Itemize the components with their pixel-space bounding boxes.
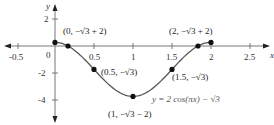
label-point-min: (1, −√3 − 2) — [108, 109, 152, 119]
point-min — [130, 94, 135, 99]
y-tick-label: 2 — [44, 14, 49, 24]
x-tick-label: 2.5 — [244, 52, 256, 62]
x-tick-label: 2 — [209, 52, 214, 62]
x-tick-label: 0 — [46, 50, 51, 60]
label-point-1-5: (1.5, −√3) — [172, 72, 208, 82]
function-graph: x y -0.5 0 0.5 1 1.5 2 2.5 2 -2 -4 — [0, 0, 274, 125]
equation-label: y = 2 cos(πx) − √3 — [151, 94, 220, 104]
x-tick-label: 1 — [131, 52, 136, 62]
point-x-intercept-1 — [65, 43, 70, 48]
label-point-0-5: (0.5, −√3) — [101, 67, 137, 77]
y-tick-label: -4 — [38, 95, 46, 105]
label-point-0: (0, −√3 + 2) — [63, 26, 107, 36]
point-0-5 — [91, 67, 96, 72]
point-2 — [208, 40, 213, 45]
x-axis-label: x — [269, 50, 274, 60]
x-tick-labels: -0.5 0 0.5 1 1.5 2 2.5 — [9, 50, 256, 62]
y-axis-down-arrow-icon — [53, 116, 58, 123]
x-axis-left-arrow-icon — [4, 44, 11, 49]
x-tick-label: 1.5 — [166, 52, 178, 62]
y-axis-label: y — [45, 1, 50, 11]
x-tick-label: -0.5 — [9, 52, 24, 62]
y-tick-label: -2 — [38, 68, 46, 78]
point-0 — [52, 40, 57, 45]
label-point-2: (2, −√3 + 2) — [169, 26, 213, 36]
point-x-intercept-2 — [195, 43, 200, 48]
x-axis-right-arrow-icon — [263, 44, 270, 49]
y-axis-up-arrow-icon — [53, 4, 58, 11]
x-tick-label: 0.5 — [89, 52, 101, 62]
